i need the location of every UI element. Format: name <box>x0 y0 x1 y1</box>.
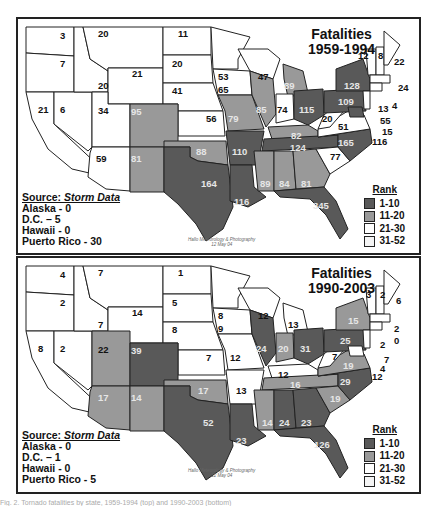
state-label-ks: 7 <box>206 353 211 363</box>
state-label-ny: 128 <box>344 81 360 91</box>
rank-legend: Rank 1-10 11-20 21-30 31-52 <box>364 184 405 248</box>
state-label-id: 7 <box>98 320 103 330</box>
state-label-ks: 56 <box>206 114 217 124</box>
state-label-ia: 9 <box>218 324 223 334</box>
credit: Hallo Meteorology & Photography12 May 04 <box>188 237 255 247</box>
state-label-ia: 65 <box>218 85 229 95</box>
state-label-ne: 8 <box>172 325 177 335</box>
state-label-ct: 2 <box>380 340 385 350</box>
state-label-ri: 0 <box>394 336 399 346</box>
state-label-mi: 89 <box>284 81 295 91</box>
state-label-ga: 81 <box>301 179 312 189</box>
state-label-va: 51 <box>338 122 349 132</box>
state-label-sc: 19 <box>330 394 341 404</box>
state-label-id: 20 <box>98 81 109 91</box>
legend-item: 11-20 <box>364 450 405 463</box>
state-label-ma: 2 <box>394 324 399 334</box>
state-label-il: 24 <box>256 344 267 354</box>
legend-swatch <box>364 236 375 247</box>
legend-item: 1-10 <box>364 198 405 211</box>
state-label-ny: 15 <box>348 316 359 326</box>
state-label-il: 85 <box>256 105 267 115</box>
legend-title: Rank <box>364 184 405 197</box>
state-label-wv: 20 <box>322 114 333 124</box>
rank-legend: Rank 1-10 11-20 21-30 31-52 <box>364 424 405 488</box>
state-label-ct: 13 <box>378 104 389 114</box>
source-notes: Source: Storm Data Alaska - 0 D.C. – 5 H… <box>22 192 120 247</box>
state-label-mt: 20 <box>98 29 109 39</box>
state-label-md: 116 <box>372 137 387 147</box>
state-label-la: 116 <box>234 197 249 207</box>
state-label-ky: 82 <box>291 131 302 141</box>
source-notes: Source: Storm Data Alaska - 0 D.C. – 1 H… <box>22 430 120 485</box>
state-label-ms: 14 <box>262 418 273 428</box>
legend-item: 1-10 <box>364 438 405 451</box>
state-label-oh: 115 <box>299 105 314 115</box>
state-label-mn: 53 <box>218 72 229 82</box>
legend-swatch <box>364 198 375 209</box>
state-label-mi: 13 <box>288 320 299 330</box>
state-label-az: 17 <box>98 393 109 403</box>
state-label-fl: 345 <box>313 201 329 211</box>
state-label-wy: 21 <box>132 69 143 79</box>
state-label-al: 84 <box>279 179 290 189</box>
state-label-nm: 81 <box>131 154 142 164</box>
state-label-nh: 2 <box>380 290 385 300</box>
legend-swatch <box>364 463 375 474</box>
state-label-tn: 124 <box>290 143 306 153</box>
map-panel-1959-1994: Fatalities 1959-1994 3 7 21 6 20 20 21 3… <box>16 17 421 255</box>
state-label-ma: 24 <box>398 83 409 93</box>
state-label-nh: 8 <box>378 51 383 61</box>
state-label-mo: 12 <box>230 353 241 363</box>
state-label-va: 19 <box>343 361 354 371</box>
legend-swatch <box>364 451 375 462</box>
state-label-sd: 5 <box>172 298 177 308</box>
state-label-wy: 14 <box>132 308 143 318</box>
state-label-ut: 22 <box>98 345 109 355</box>
legend-swatch <box>364 223 375 234</box>
state-label-me: 6 <box>396 296 401 306</box>
state-label-la: 23 <box>236 436 247 446</box>
state-label-nd: 1 <box>178 268 183 278</box>
title-line-1: Fatalities <box>308 27 375 42</box>
legend-title: Rank <box>364 424 405 437</box>
state-label-nc: 165 <box>338 138 354 148</box>
state-label-wa: 3 <box>60 31 65 41</box>
state-label-az: 59 <box>96 154 107 164</box>
note-puerto-rico: Puerto Rico - 5 <box>22 474 120 485</box>
state-label-vt: 3 <box>366 290 371 300</box>
title-line-1: Fatalities <box>308 266 375 281</box>
state-label-wi: 47 <box>258 72 269 82</box>
state-label-or: 2 <box>60 298 65 308</box>
legend-swatch <box>364 476 375 487</box>
state-label-nm: 14 <box>131 393 142 403</box>
legend-item: 11-20 <box>364 210 405 223</box>
state-label-ky: 12 <box>278 370 289 380</box>
state-label-nj: 55 <box>380 116 391 126</box>
state-label-al: 24 <box>279 418 290 428</box>
state-label-ne: 41 <box>172 86 183 96</box>
state-label-tn: 16 <box>290 380 301 390</box>
state-label-co: 95 <box>131 107 142 117</box>
state-label-md: 12 <box>372 372 383 382</box>
state-label-ga: 23 <box>301 418 312 428</box>
legend-item: 21-30 <box>364 463 405 476</box>
state-label-pa: 109 <box>338 97 354 107</box>
legend-swatch <box>364 438 375 449</box>
state-label-tx: 52 <box>203 418 214 428</box>
state-label-ms: 89 <box>260 179 271 189</box>
state-label-wv: 7 <box>332 352 337 362</box>
figure-caption: Fig. 2. Tornado fatalities by state, 195… <box>0 499 431 506</box>
state-label-co: 39 <box>131 346 142 356</box>
state-label-nc: 29 <box>340 377 351 387</box>
state-label-wi: 12 <box>258 311 269 321</box>
legend-swatch <box>364 211 375 222</box>
state-label-ut: 34 <box>98 106 109 116</box>
state-label-ca: 8 <box>38 344 43 354</box>
state-label-nv: 2 <box>60 344 65 354</box>
legend-item: 21-30 <box>364 223 405 236</box>
state-label-mo: 79 <box>228 114 239 124</box>
state-label-tx: 164 <box>201 179 217 189</box>
state-label-mn: 8 <box>218 311 223 321</box>
state-label-ar: 13 <box>236 386 247 396</box>
